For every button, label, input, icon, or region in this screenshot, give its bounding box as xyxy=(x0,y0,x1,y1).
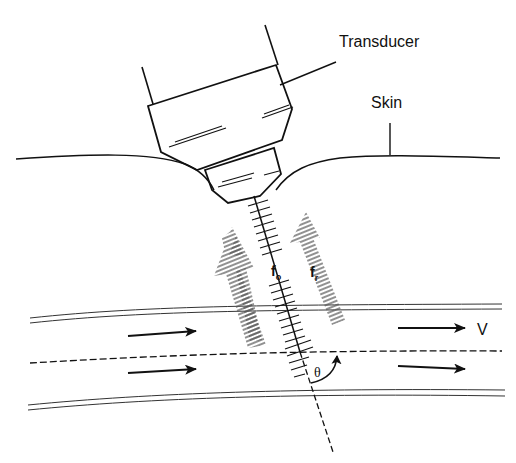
transmitted-frequency-label: fo xyxy=(271,263,281,282)
transducer xyxy=(148,65,293,203)
fo-subscript: o xyxy=(276,272,282,282)
blood-vessel-walls xyxy=(28,304,505,410)
received-frequency-label: fr xyxy=(310,264,318,283)
diagram-drawing xyxy=(0,0,516,463)
fr-subscript: r xyxy=(315,273,319,283)
transducer-leader-line xyxy=(280,62,336,85)
skin-label: Skin xyxy=(371,94,402,112)
velocity-label: V xyxy=(477,321,488,339)
angle-label: θ xyxy=(314,365,321,381)
transducer-label: Transducer xyxy=(339,33,419,51)
ultrasound-beam-axis xyxy=(248,196,333,452)
doppler-diagram: Transducer Skin V fo fr θ xyxy=(0,0,516,463)
vessel-centerline xyxy=(30,351,502,363)
